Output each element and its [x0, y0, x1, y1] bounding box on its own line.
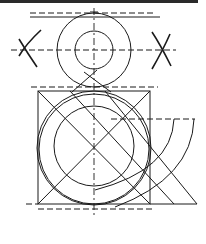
tail-outer-arc: [115, 119, 194, 207]
left-x-marker: [19, 30, 41, 67]
ampersand-construction-diagram: [0, 0, 206, 244]
loop-stroke-right: [84, 72, 111, 92]
loop-stroke-left: [72, 70, 97, 92]
tail-diagonal-inner: [70, 91, 174, 204]
tail-inner-arc: [95, 119, 174, 190]
